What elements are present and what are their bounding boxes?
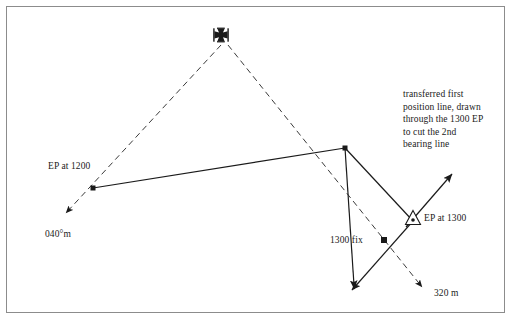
plotted-lines-group (93, 148, 450, 290)
label-course-040-magnetic: 040°m (45, 228, 71, 241)
second-bearing-line (228, 45, 422, 287)
fix-marker-1300-icon (381, 237, 387, 243)
run-to-fix-line (345, 148, 354, 289)
transferred-position-line-note: transferred first position line, drawn t… (403, 88, 507, 151)
filled-square-dot-corner-icon (343, 146, 348, 151)
label-1300-fix: 1300 fix (330, 234, 363, 247)
transferred-line-descending (346, 149, 413, 221)
bearing-lines-group (66, 45, 422, 287)
label-distance-320-m: 320 m (434, 287, 459, 300)
transferred-position-line (345, 148, 450, 175)
filled-square-dot-ep1200-icon (91, 186, 96, 191)
church-cross-symbol-icon (213, 28, 229, 43)
label-ep-at-1200: EP at 1200 (48, 160, 90, 173)
fix-connector-line (352, 221, 413, 290)
course-track-1200-to-1300 (93, 148, 345, 188)
first-bearing-line (66, 45, 221, 213)
label-ep-at-1300: EP at 1300 (424, 212, 466, 225)
diagram-page: transferred first position line, drawn t… (0, 0, 513, 321)
